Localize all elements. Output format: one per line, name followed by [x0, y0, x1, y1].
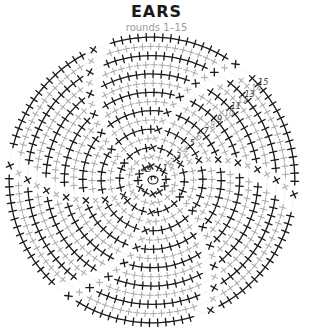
stitch-sc-icon: [63, 72, 72, 81]
stitch-sc-icon: [106, 119, 117, 130]
stitch-sc-icon: [194, 281, 202, 289]
stitch-sc-icon: [272, 106, 282, 116]
stitch-sc-icon: [155, 282, 163, 290]
stitch-sc-icon: [232, 128, 241, 137]
stitch-sc-icon: [158, 117, 166, 125]
stitch-sc-icon: [31, 132, 41, 142]
stitch-sc-icon: [161, 99, 168, 106]
stitch-sc-icon: [79, 175, 87, 183]
stitch-sc-icon: [95, 204, 104, 213]
stitch-sc-icon: [263, 92, 274, 103]
stitch-sc-icon: [161, 254, 168, 261]
stitch-sc-icon: [55, 121, 65, 131]
stitch-sc-icon: [78, 140, 87, 149]
stitch-sc-icon: [211, 102, 220, 111]
stitch-sc-icon: [197, 166, 206, 175]
stitch-sc-icon: [28, 139, 37, 148]
stitch-sc-icon: [157, 225, 166, 234]
stitch-sc-icon: [74, 73, 85, 84]
stitch-sc-icon: [251, 199, 260, 208]
stitch-sc-icon: [191, 241, 200, 250]
stitch-sc-icon: [169, 101, 177, 109]
stitch-sc-icon: [64, 292, 72, 300]
stitch-sc-icon: [46, 247, 57, 258]
stitch-sc-icon: [108, 77, 118, 87]
stitch-sc-icon: [42, 169, 50, 177]
stitch-sc-icon: [41, 185, 52, 196]
stitch-sc-icon: [142, 33, 150, 41]
stitch-sc-icon: [163, 281, 172, 290]
stitch-sc-icon: [15, 182, 22, 189]
stitch-sc-icon: [147, 125, 155, 133]
stitch-sc-icon: [217, 168, 225, 176]
stitch-sc-icon: [58, 103, 67, 112]
stitch-sc-icon: [257, 116, 267, 126]
stitch-sc-icon: [169, 252, 177, 260]
stitch-sc-icon: [171, 279, 180, 288]
stitch-sc-icon: [85, 79, 94, 88]
stitch-sc-icon: [209, 57, 218, 66]
stitch-sc-icon: [190, 69, 198, 77]
stitch-sc-icon: [113, 115, 123, 125]
stitch-sc-icon: [34, 124, 44, 134]
stitch-sc-icon: [248, 247, 259, 258]
stitch-sc-icon: [250, 261, 259, 270]
stitch-sc-icon: [266, 139, 275, 148]
stitch-sc-icon: [40, 217, 48, 225]
stitch-sc-icon: [138, 107, 147, 116]
stitch-sc-icon: [109, 304, 117, 312]
stitch-sc-icon: [169, 212, 178, 221]
stitch-sc-icon: [184, 294, 193, 303]
stitch-sc-icon: [184, 245, 193, 254]
stitch-sc-icon: [121, 111, 131, 121]
stitch-sc-icon: [221, 148, 229, 156]
stitch-sc-icon: [226, 284, 235, 293]
stitch-sc-icon: [170, 120, 178, 128]
stitch-sc-icon: [186, 273, 196, 283]
stitch-sc-icon: [84, 249, 93, 258]
stitch-sc-icon: [146, 319, 154, 327]
stitch-sc-icon: [113, 266, 120, 273]
stitch-sc-icon: [250, 228, 259, 237]
stitch-sc-icon: [87, 225, 96, 234]
stitch-sc-icon: [231, 225, 240, 234]
stitch-sc-icon: [63, 223, 72, 232]
stitch-sc-icon: [82, 219, 91, 228]
stitch-sc-icon: [267, 99, 277, 109]
stitch-sc-icon: [151, 62, 158, 69]
stitch-sc-icon: [30, 258, 41, 269]
stitch-sc-icon: [227, 171, 234, 178]
stitch-sc-icon: [117, 164, 127, 174]
stitch-sc-icon: [155, 292, 162, 299]
stitch-sc-icon: [129, 109, 138, 118]
stitch-sc-icon: [121, 131, 131, 141]
stitch-sc-icon: [281, 163, 288, 170]
stitch-sc-icon: [161, 182, 169, 190]
stitch-sc-icon: [173, 73, 182, 82]
stitch-sc-icon: [261, 151, 269, 159]
stitch-sc-icon: [135, 216, 143, 224]
stitch-sc-icon: [86, 294, 95, 303]
stitch-sc-icon: [270, 122, 278, 130]
stitch-sc-icon: [141, 80, 148, 87]
stitch-sc-icon: [141, 70, 149, 78]
stitch-sc-icon: [208, 225, 217, 234]
stitch-sc-icon: [162, 318, 170, 326]
stitch-sc-icon: [158, 80, 165, 87]
stitch-sc-icon: [148, 274, 154, 280]
stitch-sc-icon: [46, 144, 56, 154]
stitch-sc-icon: [286, 211, 295, 220]
stitch-sc-icon: [5, 161, 15, 171]
stitch-sc-icon: [226, 232, 235, 241]
stitch-sc-icon: [251, 154, 260, 163]
stitch-sc-icon: [5, 183, 13, 191]
stitch-sc-icon: [149, 70, 157, 78]
stitch-sc-icon: [26, 148, 35, 157]
stitch-sc-icon: [169, 188, 176, 195]
stitch-sc-icon: [226, 188, 233, 195]
stitch-sc-icon: [153, 255, 160, 262]
stitch-sc-icon: [134, 118, 142, 126]
stitch-sc-icon: [104, 272, 112, 280]
stitch-sc-icon: [76, 289, 83, 296]
stitch-sc-icon: [192, 249, 202, 259]
